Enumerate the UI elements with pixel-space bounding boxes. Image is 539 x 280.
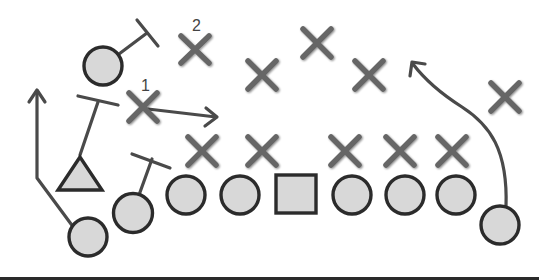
play-diagram: 2 1 — [0, 0, 539, 280]
defender-dl-1 — [188, 137, 216, 165]
player-wr-left-top — [84, 47, 122, 85]
defender-dl-5 — [438, 137, 466, 165]
player-wr-left-bottom — [69, 218, 107, 256]
play-diagram-canvas: 2 1 — [0, 0, 539, 280]
defender-s — [303, 29, 331, 57]
block-bar-wr-top — [137, 20, 158, 46]
player-lg — [221, 176, 259, 214]
player-rg — [333, 176, 371, 214]
player-qb — [58, 157, 102, 190]
label-defender-2: 2 — [192, 17, 201, 34]
player-wr-right — [481, 206, 519, 244]
defender-lb-b — [355, 61, 383, 89]
defender-1 — [129, 93, 157, 121]
label-defender-1: 1 — [141, 77, 150, 94]
defender-dl-4 — [386, 137, 414, 165]
player-center — [276, 175, 316, 213]
player-te-right — [437, 176, 475, 214]
defender-lb-a — [248, 61, 276, 89]
defender-2 — [181, 36, 209, 63]
block-line-wr-top — [119, 33, 147, 54]
defender-cb-right — [491, 83, 519, 111]
block-line-te-left — [139, 159, 152, 195]
defender-dl-2 — [248, 137, 276, 165]
block-line-qb — [80, 102, 98, 155]
player-rt — [386, 176, 424, 214]
defender-dl-3 — [331, 137, 359, 165]
player-lt — [167, 176, 205, 214]
route-defender-1 — [148, 109, 216, 117]
player-te-left — [114, 194, 153, 233]
route-wr-left — [37, 94, 74, 228]
